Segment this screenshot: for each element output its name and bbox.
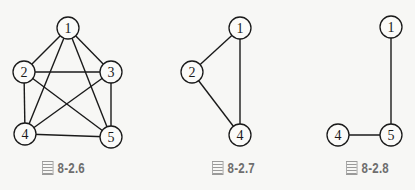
svg-text:5: 5 [388, 128, 395, 143]
figure-glyph-icon [42, 161, 53, 175]
node-1: 1 [57, 17, 79, 39]
caption-figure-8-2-7: 8-2.7 [212, 160, 255, 176]
node-1: 1 [229, 17, 251, 39]
svg-text:1: 1 [237, 21, 244, 36]
node-5: 5 [380, 124, 402, 146]
node-1: 1 [380, 16, 402, 38]
svg-text:3: 3 [108, 65, 115, 80]
edge-2-4 [192, 72, 240, 135]
caption-number: 8-2.8 [362, 160, 389, 176]
figure-8-2-6: 12345 [13, 17, 122, 148]
svg-text:1: 1 [388, 20, 395, 35]
caption-figure-8-2-6: 8-2.6 [42, 160, 85, 176]
node-4: 4 [229, 124, 251, 146]
svg-text:4: 4 [22, 127, 29, 142]
edge-4-5 [25, 134, 111, 137]
caption-figure-8-2-8: 8-2.8 [346, 160, 389, 176]
caption-number: 8-2.6 [58, 160, 85, 176]
svg-text:2: 2 [189, 65, 196, 80]
node-2: 2 [181, 61, 203, 83]
svg-text:4: 4 [335, 128, 342, 143]
svg-text:5: 5 [108, 130, 115, 145]
caption-number: 8-2.7 [228, 160, 255, 176]
svg-text:4: 4 [237, 128, 244, 143]
node-5: 5 [100, 126, 122, 148]
node-2: 2 [13, 61, 35, 83]
figure-8-2-7: 124 [181, 17, 251, 146]
svg-text:1: 1 [65, 21, 72, 36]
node-4: 4 [14, 123, 36, 145]
node-3: 3 [100, 61, 122, 83]
svg-text:2: 2 [21, 65, 28, 80]
figure-glyph-icon [212, 161, 223, 175]
figure-glyph-icon [346, 161, 357, 175]
figure-8-2-8: 145 [327, 16, 402, 146]
node-4: 4 [327, 124, 349, 146]
